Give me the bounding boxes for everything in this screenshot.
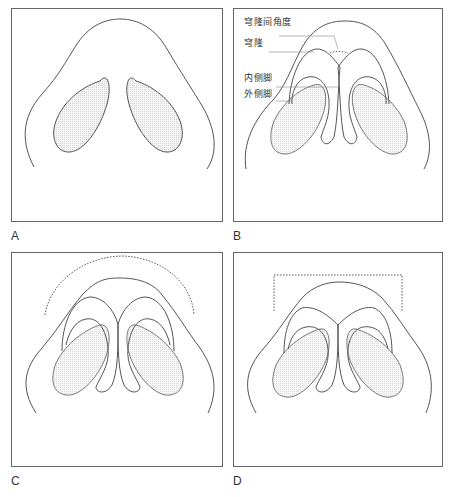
right-nostril xyxy=(352,84,407,154)
panel-letter-a: A xyxy=(11,229,19,243)
label-interdomal-angle: 穹隆间角度 xyxy=(244,15,292,28)
nose-base-illustration-c xyxy=(12,253,224,468)
nose-contour xyxy=(248,282,432,413)
label-lateral-crus: 外侧脚 xyxy=(244,87,273,100)
panel-d xyxy=(233,252,443,467)
left-nostril xyxy=(53,325,109,395)
label-medial-crus: 内侧脚 xyxy=(244,71,273,84)
left-nostril xyxy=(271,84,326,154)
panel-letter-d: D xyxy=(233,474,242,488)
panel-letter-c: C xyxy=(11,474,20,488)
rounded-tip-outline xyxy=(45,256,194,315)
panel-b: 穹隆间角度 穹隆 内侧脚 外侧脚 xyxy=(233,8,443,222)
left-nostril xyxy=(273,329,329,397)
nose-base-illustration-d xyxy=(234,253,444,468)
boxy-tip-outline xyxy=(274,275,402,311)
right-nostril xyxy=(347,329,403,397)
panel-a xyxy=(11,8,223,222)
right-nostril xyxy=(127,325,183,395)
nose-contour xyxy=(26,278,214,413)
nose-contour xyxy=(25,19,214,169)
panel-letter-b: B xyxy=(233,229,241,243)
panel-c xyxy=(11,252,223,467)
label-dome: 穹隆 xyxy=(244,36,263,49)
nose-base-illustration-a xyxy=(12,9,224,223)
right-nostril xyxy=(127,78,183,152)
left-nostril xyxy=(54,78,110,152)
nose-base-illustration-b xyxy=(234,9,444,223)
interdomal-dotted-line xyxy=(330,52,348,54)
